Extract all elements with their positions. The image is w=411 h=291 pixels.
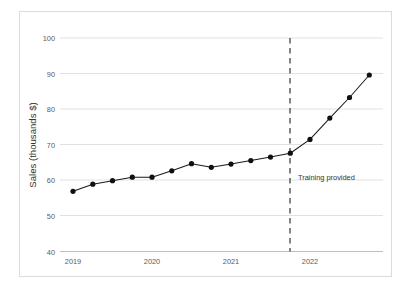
data-point <box>327 116 332 121</box>
x-tick-label-2020: 2020 <box>144 257 160 266</box>
data-point <box>189 161 194 166</box>
x-tick-label-2019: 2019 <box>65 257 81 266</box>
data-point <box>228 162 233 167</box>
training-annotation-label: Training provided <box>298 173 355 182</box>
data-point <box>110 178 115 183</box>
x-axis-tick-labels: 2019 2020 2021 2022 <box>65 257 318 266</box>
data-point <box>268 155 273 160</box>
gridlines-group <box>60 38 383 216</box>
y-tick-label-40: 40 <box>47 248 55 257</box>
data-point <box>169 168 174 173</box>
y-tick-label-80: 80 <box>47 105 55 114</box>
data-point <box>149 175 154 180</box>
data-point <box>307 137 312 142</box>
data-point <box>70 189 75 194</box>
y-axis-tick-labels: 100 90 80 70 60 50 40 <box>43 34 55 257</box>
sales-line-chart: 100 90 80 70 60 50 40 2019 2020 2021 202… <box>0 0 411 291</box>
data-point <box>90 182 95 187</box>
y-tick-label-60: 60 <box>47 176 55 185</box>
y-tick-label-100: 100 <box>43 34 55 43</box>
y-tick-label-90: 90 <box>47 70 55 79</box>
y-tick-label-50: 50 <box>47 212 55 221</box>
x-tick-label-2022: 2022 <box>302 257 318 266</box>
x-tick-label-2021: 2021 <box>223 257 239 266</box>
data-point <box>130 175 135 180</box>
data-point <box>347 95 352 100</box>
y-axis-title: Sales (thousands $) <box>27 102 38 187</box>
data-point <box>248 158 253 163</box>
y-tick-label-70: 70 <box>47 141 55 150</box>
data-point <box>288 151 293 156</box>
data-point <box>367 72 372 77</box>
data-point <box>209 165 214 170</box>
